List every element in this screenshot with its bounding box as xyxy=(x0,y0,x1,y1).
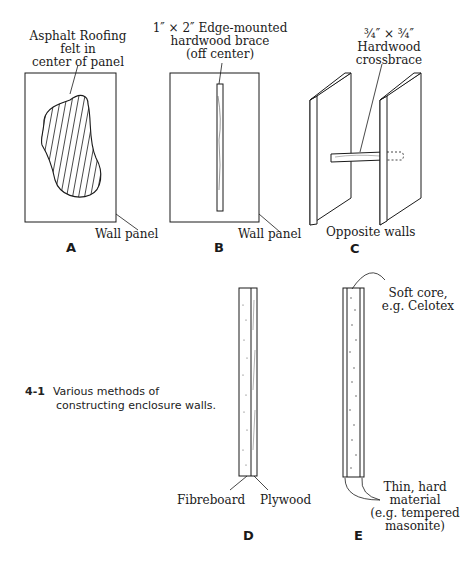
panel-c-drawing xyxy=(310,64,421,225)
panel-e-letter: E xyxy=(354,528,363,543)
caption-number: 4-1 xyxy=(25,385,45,398)
caption-line-2: constructing enclosure walls. xyxy=(56,399,216,412)
callout-line: masonite) xyxy=(370,520,460,533)
panel-c-letter: C xyxy=(350,241,360,256)
callout-line: center of panel xyxy=(28,56,128,69)
panel-c-callout: ¾″ × ¾″ Hardwood crossbrace xyxy=(352,28,426,67)
panel-c-walls-label: Opposite walls xyxy=(326,226,415,239)
panel-a-drawing xyxy=(25,65,138,230)
panel-d-plywood-label: Plywood xyxy=(260,494,311,507)
panel-b-callout: 1″ × 2″ Edge-mounted hardwood brace (off… xyxy=(150,22,290,61)
callout-line: crossbrace xyxy=(352,54,426,67)
panel-d-fibreboard-label: Fibreboard xyxy=(177,494,245,507)
panel-e-bottom-callout: Thin, hard material (e.g. tempered mason… xyxy=(370,481,460,533)
panel-a-wall-label: Wall panel xyxy=(95,228,158,241)
callout-line: (off center) xyxy=(150,48,290,61)
panel-a-callout: Asphalt Roofing felt in center of panel xyxy=(28,30,128,69)
panel-d-drawing xyxy=(230,288,268,490)
panel-b-wall-label: Wall panel xyxy=(238,228,301,241)
figure-caption: 4-1Various methods of constructing enclo… xyxy=(25,385,216,413)
panel-b-letter: B xyxy=(214,240,224,255)
diagram-drawing xyxy=(0,0,473,562)
panel-e-top-callout: Soft core, e.g. Celotex xyxy=(378,287,458,313)
panel-d-letter: D xyxy=(243,528,254,543)
panel-a-letter: A xyxy=(66,240,76,255)
panel-b-drawing xyxy=(170,63,280,232)
caption-line-1: Various methods of xyxy=(53,385,159,398)
callout-line: e.g. Celotex xyxy=(378,300,458,313)
